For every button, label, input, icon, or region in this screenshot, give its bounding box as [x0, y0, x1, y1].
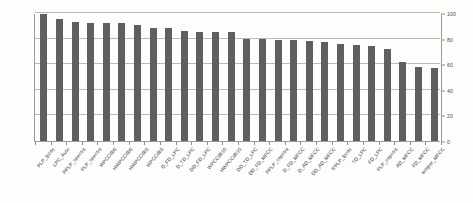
x-tick-mark [160, 142, 161, 145]
y-axis-labels: 020406080100 [441, 14, 471, 142]
x-tick-mark [238, 142, 239, 145]
bar [384, 49, 391, 141]
bar [243, 39, 250, 141]
bar [40, 14, 47, 141]
bar [399, 62, 406, 141]
bar [56, 19, 63, 141]
bar [72, 22, 79, 141]
x-tick-mark [176, 142, 177, 145]
bar [181, 31, 188, 141]
bar [431, 68, 438, 141]
bar [212, 32, 219, 141]
x-tick-mark [316, 142, 317, 145]
x-tick-mark [269, 142, 270, 145]
x-tick-mark [191, 142, 192, 145]
x-tick-mark [363, 142, 364, 145]
bar [165, 28, 172, 141]
x-tick-mark [285, 142, 286, 145]
x-tick-mark [394, 142, 395, 145]
y-tick-label: 40 [447, 88, 453, 94]
y-tick-mark [441, 14, 445, 15]
x-tick-mark [441, 142, 442, 145]
x-tick-mark [51, 142, 52, 145]
bar [87, 23, 94, 141]
bar [275, 40, 282, 141]
bar [259, 39, 266, 141]
bar [118, 23, 125, 141]
x-tick-mark [82, 142, 83, 145]
x-tick-mark [425, 142, 426, 145]
bar [228, 32, 235, 141]
bar [415, 67, 422, 141]
x-tick-mark [379, 142, 380, 145]
y-tick-mark [441, 39, 445, 40]
y-tick-label: 80 [447, 37, 453, 43]
y-tick-mark [441, 90, 445, 91]
y-tick-mark [441, 116, 445, 117]
bar [103, 23, 110, 141]
y-tick-label: 100 [447, 11, 456, 17]
bar [321, 42, 328, 141]
bar [134, 25, 141, 141]
bar-chart: 020406080100 PLP_lpcasLPC_AutoRPLP_spect… [0, 0, 473, 203]
y-tick-mark [441, 65, 445, 66]
y-tick-label: 20 [447, 113, 453, 119]
plot-area [34, 14, 440, 142]
y-tick-label: 0 [447, 139, 450, 145]
bar [290, 40, 297, 141]
x-tick-mark [66, 142, 67, 145]
x-tick-mark [35, 142, 36, 145]
x-tick-mark [97, 142, 98, 145]
bar-series [35, 14, 440, 141]
bar [196, 32, 203, 141]
x-axis-labels: PLP_lpcasLPC_AutoRPLP_spectraPLP_spectra… [34, 146, 473, 203]
x-tick-mark [113, 142, 114, 145]
bar [368, 46, 375, 141]
y-tick-label: 60 [447, 62, 453, 68]
gridline [35, 12, 440, 13]
x-tick-label: TD_LPC [351, 146, 368, 165]
bar [353, 45, 360, 141]
bar [306, 41, 313, 141]
bar [150, 28, 157, 141]
bar [337, 44, 344, 141]
